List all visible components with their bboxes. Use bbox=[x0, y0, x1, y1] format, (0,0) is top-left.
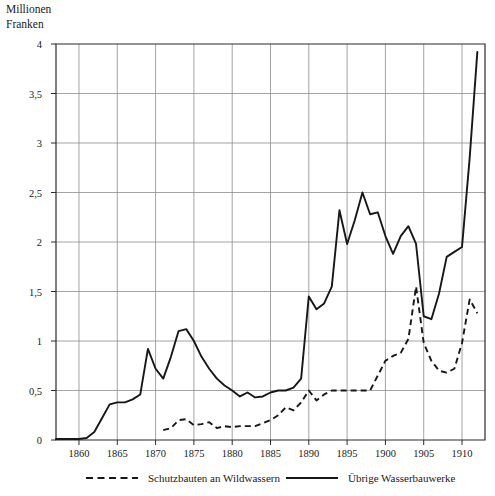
x-tick-label: 1910 bbox=[452, 448, 473, 459]
y-tick-label: 3,5 bbox=[29, 89, 42, 100]
axis-unit-line-2: Franken bbox=[6, 18, 44, 30]
series-line-schutzbauten-an-wildwassern bbox=[163, 287, 477, 431]
axis-unit-caption: Millionen Franken bbox=[6, 3, 52, 30]
water-engineering-expenditure-chart: Millionen Franken 00,511,522,533,54 1860… bbox=[0, 0, 495, 496]
grid-lines bbox=[56, 44, 485, 440]
y-tick-label: 1 bbox=[37, 336, 42, 347]
y-tick-label: 1,5 bbox=[29, 287, 42, 298]
legend-label: Schutzbauten an Wildwassern bbox=[148, 472, 280, 484]
y-tick-label: 2,5 bbox=[29, 188, 42, 199]
x-tick-label: 1900 bbox=[375, 448, 396, 459]
x-tick-label: 1905 bbox=[413, 448, 434, 459]
series-line-uebrige-wasserbauwerke bbox=[56, 52, 477, 439]
x-tick-label: 1895 bbox=[337, 448, 358, 459]
axis-unit-line-1: Millionen bbox=[6, 3, 52, 15]
y-tick-label: 0 bbox=[37, 435, 42, 446]
y-axis-tick-labels: 00,511,522,533,54 bbox=[29, 39, 56, 446]
x-tick-label: 1865 bbox=[107, 448, 128, 459]
y-tick-label: 2 bbox=[37, 237, 42, 248]
x-tick-label: 1870 bbox=[145, 448, 166, 459]
x-tick-label: 1860 bbox=[68, 448, 89, 459]
legend-label: Übrige Wasserbauwerke bbox=[348, 472, 455, 484]
y-tick-label: 4 bbox=[37, 39, 43, 50]
x-axis-tick-labels: 1860186518701875188018851890189519001905… bbox=[68, 440, 472, 459]
y-tick-label: 3 bbox=[37, 138, 42, 149]
chart-svg-canvas: Millionen Franken 00,511,522,533,54 1860… bbox=[0, 0, 495, 496]
x-tick-label: 1885 bbox=[260, 448, 281, 459]
chart-legend: Schutzbauten an WildwassernÜbrige Wasser… bbox=[86, 472, 455, 484]
x-tick-label: 1875 bbox=[183, 448, 204, 459]
x-tick-label: 1880 bbox=[222, 448, 243, 459]
x-tick-label: 1890 bbox=[298, 448, 319, 459]
data-series-layer bbox=[56, 52, 477, 439]
y-tick-label: 0,5 bbox=[29, 386, 42, 397]
